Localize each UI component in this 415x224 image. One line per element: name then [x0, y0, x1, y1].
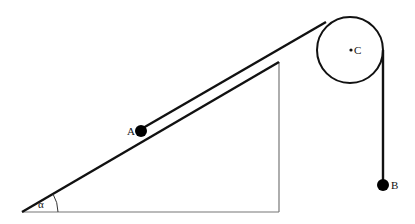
pulley-center-dot [349, 48, 352, 51]
mass-a [135, 125, 147, 137]
mass-a-label: A [127, 125, 135, 137]
incline-pulley-diagram: α C A B [0, 0, 415, 224]
angle-label: α [38, 198, 44, 210]
mass-b-label: B [391, 179, 398, 191]
pulley-center-label: C [354, 44, 361, 56]
string-incline [143, 22, 326, 128]
mass-b [377, 179, 389, 191]
incline-hypotenuse [22, 62, 279, 212]
angle-arc [53, 194, 58, 212]
